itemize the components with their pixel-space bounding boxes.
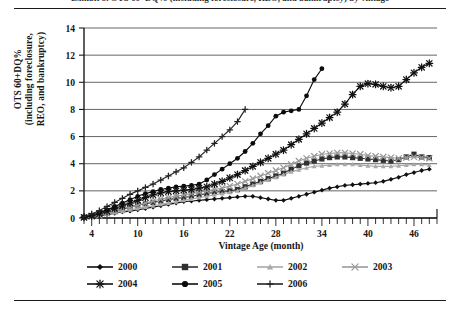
line-chart: 02468101214 410162228344046 [0,0,460,250]
svg-text:10: 10 [65,77,75,88]
svg-text:8: 8 [70,104,75,115]
legend-swatch-2004 [86,278,114,290]
x-tick-labels: 410162228344046 [89,228,419,239]
legend-label-2003: 2003 [373,261,392,272]
svg-text:34: 34 [317,228,327,239]
legend-label-2005: 2005 [203,278,222,289]
figure-page: Exhibit 5. OTS 60+DQ% (including foreclo… [0,0,460,318]
legend-label-2001: 2001 [203,261,222,272]
legend-item-2006[interactable]: 2006 [256,278,341,290]
svg-text:6: 6 [70,131,75,142]
legend-item-2000[interactable]: 2000 [86,261,171,273]
legend-label-2000: 2000 [118,261,137,272]
legend-item-2003[interactable]: 2003 [341,261,426,273]
x-axis-title: Vintage Age (month) [84,240,438,251]
legend-swatch-2002 [256,261,284,273]
svg-text:40: 40 [363,228,373,239]
svg-text:4: 4 [70,158,75,169]
legend-label-2002: 2002 [288,261,307,272]
svg-text:2: 2 [70,185,75,196]
legend-item-2002[interactable]: 2002 [256,261,341,273]
legend-item-2001[interactable]: 2001 [171,261,256,273]
legend-swatch-2001 [171,261,199,273]
legend-swatch-2006 [256,278,284,290]
svg-text:12: 12 [65,50,75,61]
legend-swatch-2005 [171,278,199,290]
legend-row-2: 200420052006 [86,275,426,292]
svg-text:0: 0 [70,213,75,224]
chart-legend: 2000200120022003 200420052006 [86,258,426,292]
legend-row-1: 2000200120022003 [86,258,426,275]
legend-swatch-2003 [341,261,369,273]
svg-text:4: 4 [89,228,94,239]
svg-text:10: 10 [133,228,143,239]
series-2006 [81,107,248,220]
svg-text:14: 14 [65,23,75,34]
bottom-rule [14,300,446,301]
legend-swatch-2000 [86,261,114,273]
svg-text:46: 46 [409,228,419,239]
chart-area: OTS 60+DQ% (including foreclosure, REO, … [0,0,460,318]
axis-lines [79,28,437,226]
svg-text:16: 16 [179,228,189,239]
gridlines [84,28,437,218]
legend-item-2005[interactable]: 2005 [171,278,256,290]
legend-label-2004: 2004 [118,278,137,289]
svg-text:22: 22 [225,228,235,239]
series-2000 [82,167,432,220]
svg-text:28: 28 [271,228,281,239]
data-series-layer [81,60,433,221]
legend-label-2006: 2006 [288,278,307,289]
y-tick-labels: 02468101214 [65,23,75,224]
legend-item-2004[interactable]: 2004 [86,278,171,290]
